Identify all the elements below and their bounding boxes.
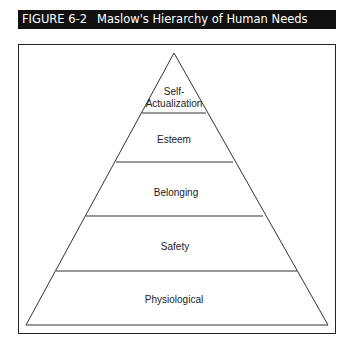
level-self-actualization-line2: Actualization — [146, 98, 203, 109]
pyramid-diagram: Self- Actualization Esteem Belonging Saf… — [0, 0, 355, 351]
level-self-actualization-line1: Self- — [164, 86, 185, 97]
level-esteem: Esteem — [157, 134, 191, 145]
level-safety: Safety — [161, 241, 189, 252]
level-belonging: Belonging — [154, 187, 198, 198]
level-physiological: Physiological — [145, 294, 203, 305]
